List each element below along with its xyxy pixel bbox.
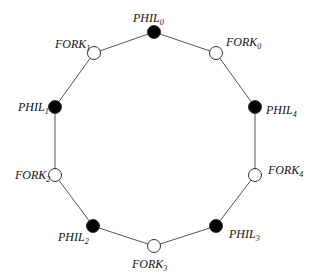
philosopher-label-3: PHIL3 [228, 227, 260, 243]
fork-label-1: FORK1 [54, 37, 90, 53]
philosopher-node-4 [249, 101, 262, 114]
edge-fork1-phil0 [94, 32, 154, 53]
ring-edges [55, 32, 255, 246]
edge-phil0-fork0 [154, 32, 216, 53]
edge-fork3-phil2 [93, 226, 154, 246]
ring-nodes [49, 26, 262, 253]
edge-fork0-phil4 [216, 53, 255, 107]
fork-label-3: FORK3 [131, 257, 167, 273]
fork-node-0 [210, 47, 223, 60]
philosopher-label-4: PHIL4 [265, 103, 297, 119]
philosopher-label-1: PHIL1 [17, 100, 49, 116]
edge-phil2-fork2 [55, 175, 93, 226]
philosopher-label-2: PHIL2 [57, 230, 89, 246]
fork-node-4 [249, 169, 262, 182]
node-labels: PHIL0FORK0PHIL4FORK4PHIL3FORK3PHIL2FORK2… [14, 11, 303, 273]
philosopher-node-1 [49, 101, 62, 114]
fork-label-4: FORK4 [267, 163, 303, 179]
fork-label-2: FORK2 [14, 168, 50, 184]
philosopher-node-0 [148, 26, 161, 39]
edge-phil3-fork3 [154, 226, 216, 246]
fork-label-0: FORK0 [225, 35, 261, 51]
fork-node-3 [148, 240, 161, 253]
dining-philosophers-diagram: PHIL0FORK0PHIL4FORK4PHIL3FORK3PHIL2FORK2… [0, 0, 313, 280]
philosopher-node-3 [210, 220, 223, 233]
philosopher-node-2 [87, 220, 100, 233]
edge-phil1-fork1 [55, 53, 94, 107]
fork-node-2 [49, 169, 62, 182]
philosopher-label-0: PHIL0 [132, 11, 164, 27]
edge-fork4-phil3 [216, 175, 255, 226]
